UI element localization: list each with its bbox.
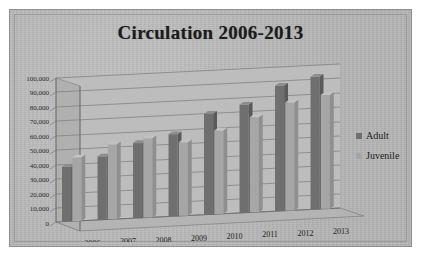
x-tick-label: 2011 xyxy=(262,230,278,239)
bar-chart-svg: 100,000 90,000 80,000 70,000 60,000 50,0… xyxy=(20,56,403,242)
bar-side-face xyxy=(81,155,85,221)
legend-item-juvenile: Juvenile xyxy=(356,150,418,161)
x-tick-label: 2007 xyxy=(120,237,136,242)
bar-side-face xyxy=(223,128,227,214)
bar-2013-adult xyxy=(311,77,320,209)
bar-side-face xyxy=(330,92,334,209)
y-tick-label: 40,000 xyxy=(30,162,50,170)
bar-side-face xyxy=(188,140,192,216)
bar-2011-adult xyxy=(240,105,249,213)
bar-2009-juvenile xyxy=(179,142,188,215)
x-tick-label: 2008 xyxy=(155,236,171,242)
bar-2012-juvenile xyxy=(285,102,294,210)
bar-2006-adult xyxy=(62,167,71,222)
y-tick-label: 30,000 xyxy=(30,176,50,184)
chart-title: Circulation 2006-2013 xyxy=(10,22,411,44)
x-tick-label: 2013 xyxy=(333,227,349,236)
y-tick-label: 70,000 xyxy=(30,118,50,126)
bar-side-face xyxy=(294,100,298,211)
x-tick-label: 2009 xyxy=(191,234,207,242)
bar-side-face xyxy=(152,136,156,218)
bar-2007-adult xyxy=(98,156,107,219)
plot-area: 100,000 90,000 80,000 70,000 60,000 50,0… xyxy=(20,56,403,242)
bar-2009-adult xyxy=(169,134,178,216)
y-tick-label: 100,000 xyxy=(26,75,49,83)
bar-2006-juvenile xyxy=(72,158,81,221)
y-tick-label: 10,000 xyxy=(30,205,50,213)
y-tick-label: 20,000 xyxy=(30,191,50,199)
bar-2008-adult xyxy=(133,143,142,218)
bar-2013-juvenile xyxy=(321,95,330,209)
screenshot-root: Circulation 2006-2013 xyxy=(0,0,421,256)
y-tick-marks xyxy=(50,78,56,226)
y-tick-label: 60,000 xyxy=(30,133,50,141)
bar-2008-juvenile xyxy=(143,138,152,217)
bar-2007-juvenile xyxy=(108,144,117,219)
bar-side-face xyxy=(259,114,263,212)
y-tick-label: 50,000 xyxy=(30,147,50,155)
x-tick-label: 2006 xyxy=(84,239,100,242)
chart-legend: Adult Juvenile xyxy=(356,130,418,170)
bar-2011-juvenile xyxy=(250,117,259,212)
bar-side-face xyxy=(117,142,121,220)
y-axis-labels: 100,000 90,000 80,000 70,000 60,000 50,0… xyxy=(26,75,49,228)
y-tick-label: 0 xyxy=(46,220,50,228)
legend-label: Adult xyxy=(366,130,389,141)
square-swatch-icon xyxy=(356,153,362,159)
bar-2012-adult xyxy=(275,86,284,211)
x-tick-label: 2010 xyxy=(226,232,242,241)
legend-item-adult: Adult xyxy=(356,130,418,141)
y-tick-label: 80,000 xyxy=(30,104,50,112)
square-swatch-icon xyxy=(356,133,362,139)
legend-label: Juvenile xyxy=(366,150,399,161)
x-axis-labels: 20062007200820092010201120122013 xyxy=(84,227,349,242)
x-tick-label: 2012 xyxy=(297,229,313,238)
y-tick-label: 90,000 xyxy=(30,89,50,97)
bar-2010-juvenile xyxy=(214,130,223,214)
bar-2010-adult xyxy=(204,114,213,215)
chart-frame: Circulation 2006-2013 xyxy=(9,9,412,247)
